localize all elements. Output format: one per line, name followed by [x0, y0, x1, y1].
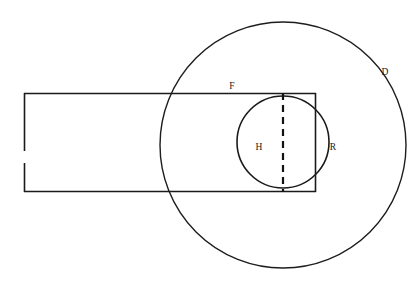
- label-r: R: [330, 142, 337, 152]
- geometric-line-drawing: F D H R: [0, 0, 420, 285]
- label-f: F: [229, 81, 234, 91]
- label-h: H: [255, 142, 262, 152]
- label-d: D: [381, 67, 388, 77]
- diagram-canvas: F D H R: [0, 0, 420, 285]
